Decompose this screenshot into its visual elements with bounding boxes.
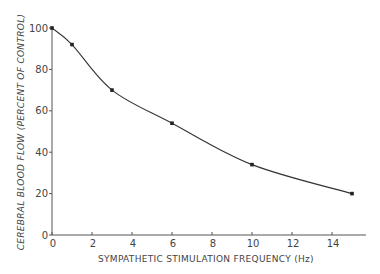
data-line [52,28,352,194]
y-tick-label: 60 [35,105,48,116]
y-axis-label: CEREBRAL BLOOD FLOW (PERCENT OF CONTROL) [16,14,26,251]
data-point-marker [70,43,74,47]
x-tick-label: 14 [327,238,340,249]
data-point-marker [50,26,54,30]
x-tick-label: 0 [50,238,56,249]
x-tick-label: 12 [287,238,300,249]
x-tick-label: 4 [130,238,136,249]
line-chart: 020406080100 02468101214 SYMPATHETIC STI… [0,0,380,274]
x-tick-label: 8 [210,238,216,249]
y-tick-label: 40 [35,147,48,158]
x-tick-label: 6 [170,238,176,249]
y-tick-label: 100 [29,23,48,34]
y-tick-label: 80 [35,64,48,75]
x-axis-label: SYMPATHETIC STIMULATION FREQUENCY (Hz) [98,254,314,264]
y-tick-label: 0 [42,230,48,241]
axes [52,27,366,235]
data-point-marker [350,192,354,196]
x-tick-label: 10 [247,238,260,249]
data-point-marker [250,163,254,167]
y-tick-label: 20 [35,188,48,199]
x-tick-label: 2 [90,238,96,249]
data-point-marker [170,121,174,125]
data-point-marker [110,88,114,92]
data-markers [50,26,354,195]
y-axis-ticks: 020406080100 [29,23,52,241]
